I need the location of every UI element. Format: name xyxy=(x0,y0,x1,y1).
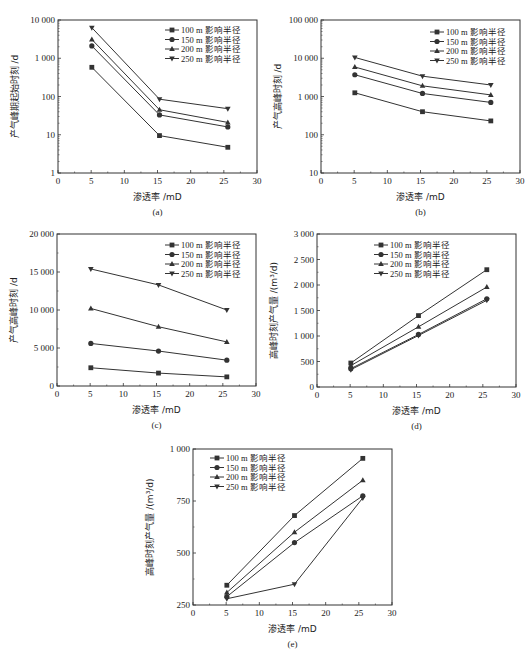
data-point-circle-icon xyxy=(224,358,229,363)
legend-label: 150 m 影响半径 xyxy=(226,463,286,473)
series-line xyxy=(227,496,363,597)
x-tick-label: 15 xyxy=(288,608,298,618)
legend-label: 150 m 影响半径 xyxy=(446,37,506,47)
y-tick-label: 250 xyxy=(177,600,191,610)
legend-marker-square-icon xyxy=(170,28,175,33)
x-tick-label: 25 xyxy=(218,389,228,399)
legend-label: 250 m 影响半径 xyxy=(181,54,241,64)
y-tick-label: 5 000 xyxy=(34,343,55,353)
legend-label: 100 m 影响半径 xyxy=(181,240,241,250)
y-axis: 101001 00010 000100 000 xyxy=(289,15,324,178)
legend-label: 200 m 影响半径 xyxy=(226,472,286,482)
panel-label: (b) xyxy=(415,207,426,217)
x-tick-label: 25 xyxy=(482,176,492,186)
legend-item: 200 m 影响半径 xyxy=(210,472,286,482)
y-tick-label: 2 500 xyxy=(294,255,315,265)
series-200m xyxy=(348,284,490,368)
chart-panel-c: 05101520253005 00010 00015 00020 000渗透率 … xyxy=(8,229,261,430)
data-point-square-icon xyxy=(352,90,357,95)
y-axis-label: 高峰时刻产气量 /(m³/d) xyxy=(144,478,155,575)
data-point-circle-icon xyxy=(225,124,230,129)
legend-label: 200 m 影响半径 xyxy=(181,259,241,269)
panel-label: (a) xyxy=(153,207,163,217)
series-250m xyxy=(224,496,366,602)
panel-label: (e) xyxy=(288,639,298,649)
data-point-triangle-up-icon xyxy=(484,284,490,289)
series-100m xyxy=(348,267,489,365)
y-axis: 2505007501 000 xyxy=(170,444,196,610)
series-200m xyxy=(88,305,230,343)
y-tick-label: 1 000 xyxy=(294,331,315,341)
data-point-square-icon xyxy=(484,267,489,272)
y-tick-label: 0 xyxy=(310,382,315,392)
legend-label: 250 m 影响半径 xyxy=(390,269,450,279)
x-tick-label: 0 xyxy=(191,608,196,618)
legend-item: 150 m 影响半径 xyxy=(165,250,241,260)
legend-item: 100 m 影响半径 xyxy=(210,453,286,463)
legend-item: 150 m 影响半径 xyxy=(165,35,241,45)
x-tick-label: 0 xyxy=(56,176,61,186)
data-point-triangle-up-icon xyxy=(89,36,95,41)
x-tick-label: 5 xyxy=(224,608,229,618)
legend-label: 150 m 影响半径 xyxy=(181,35,241,45)
data-point-square-icon xyxy=(224,374,229,379)
legend-label: 100 m 影响半径 xyxy=(446,27,506,37)
x-tick-label: 10 xyxy=(120,176,130,186)
data-point-square-icon xyxy=(292,513,297,518)
legend: 100 m 影响半径150 m 影响半径200 m 影响半径250 m 影响半径 xyxy=(210,453,286,492)
y-axis-label: 产气高峰时刻 /d xyxy=(272,64,283,130)
x-axis-label: 渗透率 /mD xyxy=(133,191,182,202)
y-axis-label: 高峰时刻产气量 /(m³/d) xyxy=(268,262,279,359)
legend-label: 150 m 影响半径 xyxy=(390,250,450,260)
x-tick-label: 15 xyxy=(416,176,426,186)
y-tick-label: 20 000 xyxy=(29,229,54,239)
legend-item: 250 m 影响半径 xyxy=(165,269,241,279)
y-tick-label: 1 500 xyxy=(294,306,315,316)
chart-panel-d: 05101520253005001 0001 5002 0002 5003 00… xyxy=(268,229,521,431)
x-tick-label: 25 xyxy=(354,608,364,618)
x-tick-label: 10 xyxy=(383,176,393,186)
x-tick-label: 5 xyxy=(352,176,357,186)
data-point-triangle-up-icon xyxy=(88,305,94,310)
x-tick-label: 0 xyxy=(319,176,324,186)
data-point-triangle-up-icon xyxy=(360,477,366,482)
data-point-square-icon xyxy=(225,145,230,150)
y-tick-label: 10 xyxy=(309,168,319,178)
legend-label: 250 m 影响半径 xyxy=(226,482,286,492)
x-axis: 051015202530 xyxy=(56,170,262,186)
series-100m xyxy=(89,65,230,150)
y-tick-label: 10 000 xyxy=(293,53,318,63)
x-axis-label: 渗透率 /mD xyxy=(392,405,441,416)
legend-marker-square-icon xyxy=(170,243,175,248)
x-tick-label: 30 xyxy=(252,389,262,399)
x-tick-label: 20 xyxy=(185,389,195,399)
y-axis-label: 产气高峰时刻 /d xyxy=(8,277,19,343)
legend-item: 200 m 影响半径 xyxy=(430,46,506,56)
data-point-square-icon xyxy=(224,583,229,588)
legend-label: 150 m 影响半径 xyxy=(181,250,241,260)
legend-marker-square-icon xyxy=(435,30,440,35)
plot-frame xyxy=(193,449,392,605)
data-point-circle-icon xyxy=(157,112,162,117)
x-tick-label: 0 xyxy=(55,389,60,399)
data-point-circle-icon xyxy=(88,341,93,346)
legend-label: 250 m 影响半径 xyxy=(181,269,241,279)
data-point-square-icon xyxy=(156,371,161,376)
y-tick-label: 500 xyxy=(177,548,191,558)
legend: 100 m 影响半径150 m 影响半径200 m 影响半径250 m 影响半径 xyxy=(430,27,506,66)
data-point-circle-icon xyxy=(89,43,94,48)
x-tick-label: 30 xyxy=(388,608,398,618)
legend-label: 100 m 影响半径 xyxy=(181,25,241,35)
x-axis-label: 渗透率 /mD xyxy=(396,191,445,202)
panel-label: (c) xyxy=(152,420,162,430)
data-point-triangle-up-icon xyxy=(352,64,358,69)
y-tick-label: 1 000 xyxy=(298,92,319,102)
y-tick-label: 2 000 xyxy=(294,280,315,290)
series-100m xyxy=(88,365,229,379)
y-axis: 1101001 00010 000 xyxy=(30,15,61,178)
x-tick-label: 15 xyxy=(153,176,163,186)
data-point-square-icon xyxy=(88,365,93,370)
legend-item: 200 m 影响半径 xyxy=(374,259,450,269)
legend-label: 200 m 影响半径 xyxy=(390,259,450,269)
data-point-square-icon xyxy=(420,109,425,114)
